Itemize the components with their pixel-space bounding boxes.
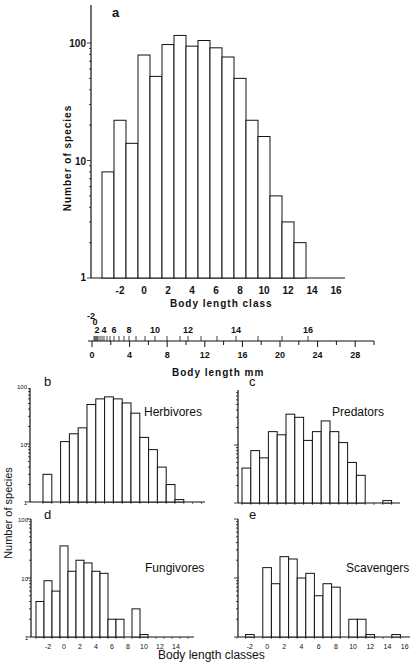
fungivores-label: Fungivores [145,561,204,575]
bar [270,196,282,278]
svg-text:6: 6 [317,643,321,650]
svg-text:4: 4 [300,643,304,650]
svg-text:12: 12 [183,325,193,335]
bar [105,397,114,502]
svg-text:10: 10 [140,643,148,650]
svg-text:24: 24 [313,350,323,360]
bar [44,581,52,637]
panel-a-ylabel: Number of species [62,78,73,238]
bar [175,500,184,502]
bar [61,442,70,502]
bar [76,560,84,637]
bar [114,120,126,278]
bar [92,571,100,637]
bar [312,432,321,503]
svg-text:0: 0 [89,350,94,360]
panel-a-xlabel: Body length class [170,298,273,309]
bar [263,568,272,637]
bar [356,475,365,503]
bar [113,399,122,502]
mm-scale [88,336,374,347]
svg-text:14: 14 [306,285,318,296]
panel-b-label: b [44,374,51,389]
svg-text:2: 2 [165,285,171,296]
bar [392,635,401,637]
bar [100,573,108,637]
svg-text:4: 4 [127,350,132,360]
bar [186,46,198,278]
bar [242,468,251,503]
svg-text:8: 8 [126,643,130,650]
bar [60,546,68,637]
bar [357,619,366,637]
svg-text:16: 16 [330,285,342,296]
bar [108,619,116,637]
bar [330,432,339,503]
svg-text:100: 100 [18,517,29,523]
svg-text:0: 0 [265,643,269,650]
svg-text:6: 6 [213,285,219,296]
bar [268,432,277,503]
bar [69,434,78,502]
bar [132,609,140,637]
bar [174,35,186,278]
svg-text:0: 0 [141,285,147,296]
bar [258,137,270,278]
svg-text:0: 0 [62,643,66,650]
bar [198,41,210,278]
bar [157,467,166,502]
svg-text:6: 6 [110,643,114,650]
bar [246,635,255,637]
bar [306,573,315,637]
bar [122,403,131,502]
bar [304,440,313,503]
svg-text:2: 2 [282,643,286,650]
panel-d-bars [27,519,194,639]
bar [52,591,60,637]
svg-text:12: 12 [200,350,210,360]
svg-text:12: 12 [282,285,294,296]
svg-text:10: 10 [20,442,27,448]
bar [116,619,124,637]
panel-d-label: d [44,507,51,522]
bar [297,578,306,637]
svg-text:12: 12 [366,643,374,650]
bar [260,458,269,503]
bar [234,78,246,278]
bar [280,557,289,637]
bar [96,399,105,502]
svg-text:14: 14 [384,643,392,650]
bar [323,584,332,637]
svg-text:4: 4 [189,285,195,296]
panel-c-label: c [249,374,256,389]
bar [87,404,96,502]
bar [348,462,357,503]
bar [271,584,280,637]
bar [251,451,260,503]
bar [286,414,295,503]
svg-text:20: 20 [275,350,285,360]
bar [246,120,258,278]
bar [36,601,44,637]
bar [131,413,140,502]
scavengers-label: Scavengers [346,561,409,575]
svg-text:2: 2 [94,325,99,335]
svg-text:6: 6 [111,325,116,335]
svg-text:1: 1 [24,500,28,506]
svg-text:16: 16 [401,643,409,650]
bar [282,222,294,278]
bar [140,635,148,637]
bar [162,45,174,278]
svg-text:10: 10 [21,576,28,582]
svg-text:2: 2 [78,643,82,650]
svg-text:28: 28 [350,350,360,360]
svg-text:8: 8 [237,285,243,296]
bar [321,421,330,503]
svg-text:8: 8 [165,350,170,360]
bar [289,559,298,637]
bar [84,563,92,637]
svg-text:4: 4 [101,325,106,335]
bar [332,587,341,637]
predators-label: Predators [332,405,384,419]
bar [126,143,138,278]
